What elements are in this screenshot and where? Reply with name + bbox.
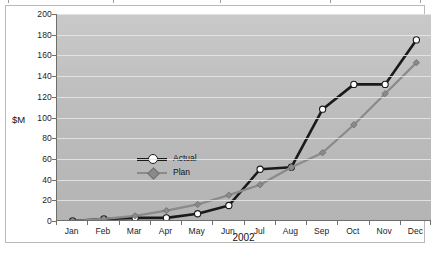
x-axis-tick-mark: [87, 221, 88, 225]
data-point-marker: [226, 192, 232, 198]
gridline: [57, 76, 431, 77]
diamond-marker-icon: [147, 167, 160, 180]
data-point-marker: [257, 166, 263, 172]
x-axis-tick-mark: [400, 221, 401, 225]
clipped-mark: [8, 0, 9, 3]
x-axis-tick-mark: [430, 221, 431, 225]
x-axis-tick-mark: [244, 221, 245, 225]
y-axis-tick-label: 20: [42, 195, 52, 205]
x-axis-tick-mark: [369, 221, 370, 225]
y-axis-tick-label: 80: [42, 133, 52, 143]
y-axis-tick-label: 40: [42, 175, 52, 185]
series-line-plan: [73, 63, 417, 221]
y-axis-tick-label: 160: [37, 50, 52, 60]
data-point-marker: [382, 81, 388, 87]
x-axis-title: 2002: [56, 232, 431, 243]
legend-label-plan: Plan: [173, 167, 190, 177]
x-axis-tick-mark: [56, 221, 57, 225]
x-axis-tick-mark: [150, 221, 151, 225]
x-axis-tick-mark: [275, 221, 276, 225]
data-point-marker: [226, 202, 232, 208]
gridline: [57, 159, 431, 160]
x-axis-tick-mark: [212, 221, 213, 225]
chart-figure: $M 020406080100120140160180200 Actual Pl…: [0, 0, 434, 255]
legend-item-plan[interactable]: Plan: [137, 166, 199, 180]
y-axis-tick-label: 100: [37, 113, 52, 123]
gridline: [57, 55, 431, 56]
legend: Actual Plan: [137, 152, 199, 180]
data-point-marker: [195, 211, 201, 217]
y-axis-tick-label: 60: [42, 154, 52, 164]
series-line-actual: [73, 40, 417, 221]
gridline: [57, 200, 431, 201]
gridline: [57, 97, 431, 98]
gridline: [57, 118, 431, 119]
data-point-marker: [194, 201, 200, 207]
data-point-marker: [413, 37, 419, 43]
gridline: [57, 35, 431, 36]
data-point-marker: [320, 106, 326, 112]
gridline: [57, 180, 431, 181]
chart-frame: $M 020406080100120140160180200 Actual Pl…: [5, 5, 425, 243]
gridline: [57, 138, 431, 139]
clipped-mark: [113, 0, 114, 3]
y-axis-tick-label: 120: [37, 92, 52, 102]
data-point-marker: [351, 81, 357, 87]
x-axis-tick-mark: [306, 221, 307, 225]
y-axis: 020406080100120140160180200: [6, 14, 56, 221]
x-axis-tick-mark: [119, 221, 120, 225]
x-axis-tick-mark: [181, 221, 182, 225]
y-axis-tick-label: 140: [37, 71, 52, 81]
x-axis-tick-mark: [337, 221, 338, 225]
y-axis-tick-label: 180: [37, 30, 52, 40]
data-point-marker: [163, 207, 169, 213]
gridline: [57, 14, 431, 15]
clipped-mark: [330, 0, 331, 3]
clipped-mark: [220, 0, 221, 3]
clipped-mark: [420, 0, 421, 3]
plot-area: Actual Plan: [56, 14, 431, 221]
y-axis-tick-label: 200: [37, 9, 52, 19]
